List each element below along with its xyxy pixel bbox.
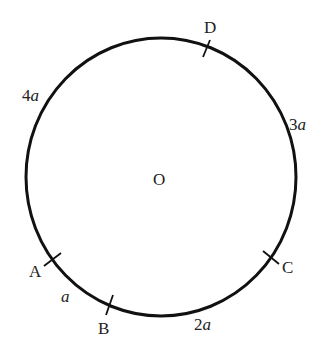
point-label-C: C [282, 258, 293, 277]
tick-A [44, 253, 61, 266]
arc-label-BC: 2a [194, 315, 211, 334]
point-label-A: A [29, 262, 42, 281]
arc-label-DA: 4a [22, 86, 39, 105]
tick-C [263, 251, 279, 264]
point-label-D: D [204, 18, 216, 37]
arc-label-AB: a [61, 287, 70, 306]
circle-diagram: D A B C O 4a 3a a 2a [0, 0, 324, 341]
point-label-B: B [98, 319, 109, 338]
arc-label-CD: 3a [289, 115, 306, 134]
center-label: O [153, 170, 165, 189]
